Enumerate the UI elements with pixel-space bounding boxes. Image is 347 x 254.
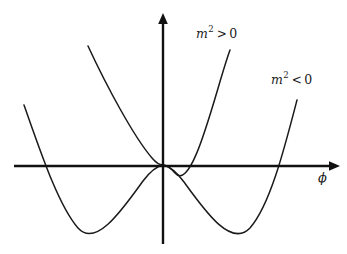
annotation-relation-less-than: < <box>292 73 302 87</box>
annotation-exponent: 2 <box>283 70 288 80</box>
annotation-value-zero: 0 <box>229 26 237 41</box>
y-axis-arrowhead-icon <box>158 13 168 24</box>
potential-diagram-figure: m2>0 m2<0 ϕ <box>0 0 347 254</box>
annotation-value-zero: 0 <box>304 72 312 87</box>
annotation-relation-greater-than: > <box>217 27 227 41</box>
x-axis-arrowhead-icon <box>329 161 340 171</box>
annotation-exponent: 2 <box>208 24 213 34</box>
x-axis-label-phi: ϕ <box>318 171 327 184</box>
plot-canvas <box>0 0 347 254</box>
annotation-variable-m: m <box>196 26 208 41</box>
annotation-m-squared-negative: m2<0 <box>271 72 312 87</box>
annotation-variable-m: m <box>271 72 283 87</box>
curve-m2-positive <box>88 46 230 176</box>
annotation-m-squared-positive: m2>0 <box>196 26 237 41</box>
